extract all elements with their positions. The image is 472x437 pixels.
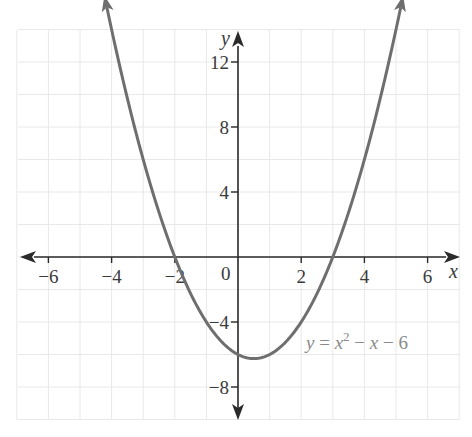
y-tick-label: −8: [209, 377, 229, 398]
x-tick-label: −6: [38, 266, 58, 287]
y-axis-label: y: [219, 27, 230, 50]
parabola-curve: [107, 7, 401, 358]
x-axis: −6−4−2246 x: [20, 251, 460, 287]
y-tick-label: 4: [220, 182, 230, 203]
parabola-graph: −6−4−2246 x 1284−4−8 y 0 y = x2 − x − 6: [0, 0, 472, 437]
x-axis-label: x: [448, 260, 458, 282]
equation-label: y = x2 − x − 6: [304, 329, 408, 353]
x-tick-label: 6: [423, 266, 433, 287]
y-tick-label: 8: [220, 117, 230, 138]
x-tick-label: 4: [360, 266, 370, 287]
x-tick-label: −4: [101, 266, 122, 287]
x-tick-label: 2: [296, 266, 306, 287]
y-axis: 1284−4−8 y: [209, 27, 244, 420]
y-tick-label: 12: [210, 52, 229, 73]
origin-label: 0: [221, 263, 231, 284]
